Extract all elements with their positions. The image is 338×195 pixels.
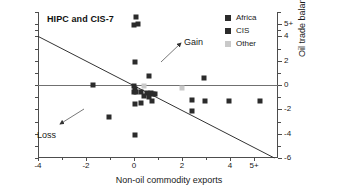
y-tick-label: -6 bbox=[284, 154, 291, 162]
left-axis-tick bbox=[35, 97, 38, 98]
left-axis-tick bbox=[35, 73, 38, 74]
right-axis-minor-tick bbox=[278, 122, 281, 123]
y-tick-label: -4 bbox=[284, 130, 291, 138]
left-axis-tick bbox=[35, 146, 38, 147]
right-axis-tick bbox=[278, 36, 282, 37]
legend-item-cis[interactable]: CIS bbox=[225, 25, 256, 37]
legend-swatch-icon bbox=[225, 15, 231, 21]
legend-label: CIS bbox=[236, 27, 249, 35]
x-axis-title: Non-oil commodity exports bbox=[0, 175, 338, 185]
y-tick-label: 5+ bbox=[284, 20, 293, 28]
data-point-marker bbox=[149, 99, 154, 104]
annotation-gain-label: Gain bbox=[184, 38, 203, 47]
legend-label: Other bbox=[236, 40, 256, 48]
legend-swatch-icon bbox=[225, 28, 231, 34]
legend-item-africa[interactable]: Africa bbox=[225, 12, 256, 24]
data-point-marker bbox=[179, 85, 184, 90]
right-axis-tick bbox=[278, 134, 282, 135]
y-tick-label: 0 bbox=[284, 81, 288, 89]
right-axis-tick bbox=[278, 85, 282, 86]
x-tick-label: 0 bbox=[132, 162, 136, 170]
data-point-marker bbox=[189, 109, 194, 114]
data-point-marker bbox=[142, 83, 147, 88]
data-point-marker bbox=[258, 98, 263, 103]
right-axis-minor-tick bbox=[278, 146, 281, 147]
data-point-marker bbox=[139, 101, 144, 106]
y-tick-label: 4 bbox=[284, 32, 288, 40]
left-axis-tick bbox=[35, 49, 38, 50]
data-point-marker bbox=[133, 101, 138, 106]
data-point-marker bbox=[134, 14, 139, 19]
legend-swatch-icon bbox=[225, 41, 231, 47]
right-axis-minor-tick bbox=[278, 73, 281, 74]
data-point-marker bbox=[203, 98, 208, 103]
x-tick-label: -2 bbox=[82, 162, 89, 170]
legend-item-other[interactable]: Other bbox=[225, 38, 256, 50]
left-axis-tick bbox=[35, 24, 38, 25]
data-point-marker bbox=[152, 92, 157, 97]
y-axis-title: Oil trade balance bbox=[297, 0, 307, 57]
data-point-marker bbox=[133, 132, 138, 137]
right-axis-tick bbox=[278, 109, 282, 110]
right-axis-minor-tick bbox=[278, 12, 281, 13]
left-axis-tick bbox=[35, 36, 38, 37]
legend-label: Africa bbox=[236, 14, 256, 22]
right-axis-tick bbox=[278, 24, 282, 25]
left-axis-tick bbox=[35, 12, 38, 13]
x-tick-label: 5+ bbox=[249, 162, 258, 170]
data-point-marker bbox=[201, 75, 206, 80]
x-axis-minor-tick bbox=[158, 157, 159, 160]
data-point-marker bbox=[226, 98, 231, 103]
y-tick-label: -2 bbox=[284, 105, 291, 113]
data-point-marker bbox=[146, 74, 151, 79]
right-axis-tick bbox=[278, 61, 282, 62]
right-axis-minor-tick bbox=[278, 30, 281, 31]
x-axis-minor-tick bbox=[110, 157, 111, 160]
left-axis-tick bbox=[35, 109, 38, 110]
x-axis-minor-tick bbox=[206, 157, 207, 160]
y-tick-label: 2 bbox=[284, 57, 288, 65]
left-axis-tick bbox=[35, 61, 38, 62]
left-axis-tick bbox=[35, 85, 38, 86]
right-axis-minor-tick bbox=[278, 49, 281, 50]
data-point-marker bbox=[189, 98, 194, 103]
x-tick-label: 4 bbox=[228, 162, 232, 170]
data-point-marker bbox=[142, 94, 147, 99]
right-axis-tick bbox=[278, 158, 282, 159]
x-axis-minor-tick bbox=[62, 157, 63, 160]
chart-container: HIPC and CIS-7 5+420-2-4-6 -4-20245+ Non… bbox=[0, 0, 338, 195]
data-point-marker bbox=[133, 60, 138, 65]
left-axis-tick bbox=[35, 122, 38, 123]
x-tick-label: -4 bbox=[34, 162, 41, 170]
chart-legend: Africa CIS Other bbox=[225, 12, 256, 51]
left-axis-tick bbox=[35, 30, 38, 31]
data-point-marker bbox=[91, 83, 96, 88]
annotation-loss-label: Loss bbox=[37, 131, 56, 140]
data-point-marker bbox=[136, 21, 141, 26]
data-point-marker bbox=[106, 114, 111, 119]
right-axis-minor-tick bbox=[278, 97, 281, 98]
x-tick-label: 2 bbox=[180, 162, 184, 170]
